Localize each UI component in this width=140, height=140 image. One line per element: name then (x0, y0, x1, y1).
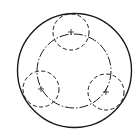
outer-circle (18, 14, 132, 128)
pitch-circle (37, 34, 111, 108)
small-circles-group (23, 14, 124, 110)
technical-drawing (0, 0, 140, 140)
center-mark-top (68, 29, 74, 35)
center-mark-right (103, 89, 109, 95)
